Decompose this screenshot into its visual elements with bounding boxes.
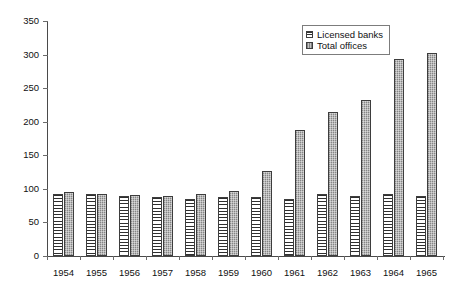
bar-1960-licensed-banks bbox=[251, 197, 262, 256]
y-tick-label: 200 bbox=[0, 117, 39, 127]
bar-1964-licensed-banks bbox=[383, 194, 394, 256]
bar-1954-licensed-banks bbox=[53, 194, 64, 256]
bar-1959-total-offices bbox=[229, 191, 240, 256]
x-tick-label: 1955 bbox=[80, 268, 113, 278]
bar-1957-total-offices bbox=[163, 196, 174, 256]
legend-swatch-icon-total-offices bbox=[306, 42, 313, 49]
y-tick-label: 50 bbox=[0, 217, 39, 227]
x-tick bbox=[80, 256, 81, 260]
bar-1961-total-offices bbox=[295, 130, 306, 256]
x-tick-label: 1962 bbox=[311, 268, 344, 278]
x-tick-label: 1956 bbox=[113, 268, 146, 278]
x-tick-label: 1964 bbox=[377, 268, 410, 278]
bar-1962-licensed-banks bbox=[317, 194, 328, 256]
x-tick-label: 1959 bbox=[212, 268, 245, 278]
bar-1962-total-offices bbox=[328, 112, 339, 256]
legend-label-total-offices: Total offices bbox=[317, 41, 367, 51]
bar-1960-total-offices bbox=[262, 171, 273, 256]
x-tick bbox=[212, 256, 213, 260]
bar-1961-licensed-banks bbox=[284, 199, 295, 256]
legend-item-total-offices: Total offices bbox=[306, 40, 383, 51]
bar-1963-licensed-banks bbox=[350, 196, 361, 256]
y-tick-label: 350 bbox=[0, 16, 39, 26]
x-tick-label: 1957 bbox=[146, 268, 179, 278]
legend-swatch-icon-licensed-banks bbox=[306, 31, 313, 38]
bar-chart: 050100150200250300350 195419551956195719… bbox=[0, 0, 455, 294]
bar-1956-total-offices bbox=[130, 195, 141, 256]
bar-1958-total-offices bbox=[196, 194, 207, 256]
x-tick bbox=[245, 256, 246, 260]
bar-1965-licensed-banks bbox=[416, 196, 427, 256]
x-tick bbox=[146, 256, 147, 260]
bar-1964-total-offices bbox=[394, 59, 405, 256]
bar-1959-licensed-banks bbox=[218, 197, 229, 256]
bar-1965-total-offices bbox=[427, 53, 438, 256]
x-tick bbox=[410, 256, 411, 260]
y-tick-label: 150 bbox=[0, 150, 39, 160]
plot-area bbox=[47, 21, 443, 256]
x-tick bbox=[113, 256, 114, 260]
x-tick-label: 1961 bbox=[278, 268, 311, 278]
bar-1957-licensed-banks bbox=[152, 197, 163, 256]
x-axis-line bbox=[47, 256, 445, 257]
x-tick bbox=[344, 256, 345, 260]
y-tick-label: 250 bbox=[0, 83, 39, 93]
y-tick-label: 100 bbox=[0, 184, 39, 194]
x-tick bbox=[377, 256, 378, 260]
bar-1955-licensed-banks bbox=[86, 194, 97, 256]
bar-1958-licensed-banks bbox=[185, 199, 196, 256]
x-tick bbox=[47, 256, 48, 260]
legend-label-licensed-banks: Licensed banks bbox=[317, 30, 383, 40]
x-tick-label: 1965 bbox=[410, 268, 443, 278]
x-tick-label: 1963 bbox=[344, 268, 377, 278]
bar-1954-total-offices bbox=[64, 192, 75, 256]
x-tick-label: 1954 bbox=[47, 268, 80, 278]
bar-1963-total-offices bbox=[361, 100, 372, 256]
y-tick-label: 300 bbox=[0, 50, 39, 60]
legend-item-licensed-banks: Licensed banks bbox=[306, 29, 383, 40]
y-tick-label: 0 bbox=[0, 251, 39, 261]
x-tick bbox=[278, 256, 279, 260]
x-tick bbox=[179, 256, 180, 260]
x-tick bbox=[443, 256, 444, 260]
x-tick-label: 1958 bbox=[179, 268, 212, 278]
bar-1956-licensed-banks bbox=[119, 196, 130, 256]
x-tick-label: 1960 bbox=[245, 268, 278, 278]
chart-legend: Licensed banks Total offices bbox=[302, 25, 390, 55]
bar-1955-total-offices bbox=[97, 194, 108, 256]
x-tick bbox=[311, 256, 312, 260]
